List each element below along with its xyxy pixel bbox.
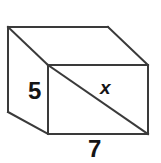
label-width: 7 — [88, 137, 101, 161]
edge-oblique-top-right — [108, 27, 148, 65]
label-height: 5 — [28, 79, 41, 103]
geometry-diagram-canvas: 5 7 x — [0, 0, 161, 163]
diagonal-line-x — [48, 65, 148, 134]
label-diagonal-x: x — [100, 78, 111, 97]
edge-oblique-top-left — [8, 27, 48, 65]
box-figure — [0, 0, 161, 163]
edge-oblique-bottom-left — [8, 112, 48, 134]
